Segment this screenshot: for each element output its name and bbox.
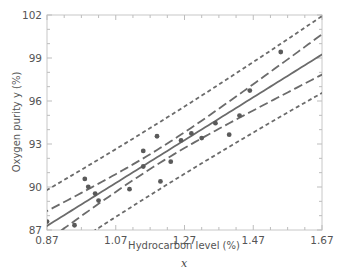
data-point	[213, 121, 218, 126]
data-point	[155, 134, 160, 139]
y-axis-label: Oxygen purity y (%)	[11, 72, 22, 173]
data-point	[93, 191, 98, 196]
x-axis-label: Hydrocarbon level (%)	[128, 240, 240, 251]
y-tick-label: 102	[22, 9, 42, 21]
y-tick-label: 90	[29, 181, 42, 193]
data-point	[247, 88, 252, 93]
data-point	[96, 198, 101, 203]
y-tick-label: 99	[29, 52, 42, 64]
confidence-limit-upper	[40, 32, 325, 215]
x-tick-label: 1.47	[242, 234, 265, 246]
y-tick-label: 96	[29, 95, 43, 107]
data-points	[45, 50, 284, 228]
data-point	[45, 219, 50, 224]
data-point	[278, 50, 283, 55]
data-point	[227, 132, 232, 137]
confidence-limit-lower	[40, 73, 325, 246]
data-point	[141, 164, 146, 169]
data-point	[127, 187, 132, 192]
x-tick-label: 1.07	[104, 234, 127, 246]
x-axis-variable: x	[181, 257, 188, 270]
axis-ticks	[47, 15, 322, 230]
data-point	[72, 223, 77, 228]
plot-frame	[47, 15, 322, 230]
y-tick-label: 93	[29, 138, 42, 150]
data-point	[158, 179, 163, 184]
x-tick-label: 1.67	[310, 234, 333, 246]
data-point	[189, 131, 194, 136]
x-tick-label: 0.87	[35, 234, 58, 246]
data-point	[141, 148, 146, 153]
data-point	[86, 184, 91, 189]
prediction-limit-upper	[40, 14, 325, 194]
data-point	[179, 138, 184, 143]
y-tick-labels: 8790939699102	[22, 9, 42, 236]
regression-chart: 8790939699102 0.871.071.271.471.67 Hydro…	[0, 0, 344, 274]
data-point	[237, 113, 242, 118]
data-point	[199, 136, 204, 141]
data-point	[82, 177, 87, 182]
data-point	[168, 159, 173, 164]
